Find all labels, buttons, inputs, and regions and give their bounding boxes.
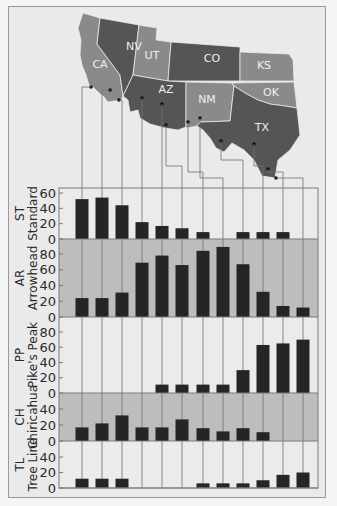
panel-code-label: ST	[13, 205, 27, 221]
bar	[136, 263, 149, 317]
tick-label: 0	[48, 386, 56, 401]
bar	[297, 473, 310, 489]
bar	[96, 298, 109, 317]
map: CANVUTCOKSAZNMOKTX	[78, 13, 300, 180]
bar	[176, 265, 189, 317]
tick-label: 40	[39, 201, 56, 216]
bar	[277, 475, 290, 488]
bar	[257, 345, 270, 393]
bar	[217, 385, 230, 393]
bar	[156, 226, 169, 239]
state-label-ks: KS	[257, 59, 271, 72]
tick-label: 20	[39, 418, 56, 433]
panel-name-label: Standard	[26, 186, 40, 241]
bar	[277, 306, 290, 317]
bar	[116, 293, 129, 317]
bar	[76, 298, 89, 317]
bar	[156, 427, 169, 441]
tick-label: 80	[39, 247, 56, 262]
bar	[237, 370, 250, 393]
bar	[116, 479, 129, 488]
panel-code-label: TL	[13, 457, 27, 472]
tick-label: 0	[48, 232, 56, 247]
bar	[217, 483, 230, 488]
tick-label: 20	[39, 465, 56, 480]
bar	[96, 423, 109, 441]
state-label-nv: NV	[126, 40, 142, 53]
state-az	[123, 75, 186, 130]
bar	[237, 428, 250, 441]
bar	[197, 428, 210, 441]
bar	[237, 232, 250, 239]
state-label-az: AZ	[158, 83, 174, 96]
state-label-ca: CA	[92, 58, 108, 71]
panel-code-label: CH	[13, 408, 27, 425]
bar	[76, 199, 89, 239]
bar	[297, 308, 310, 317]
chart-figure: CANVUTCOKSAZNMOKTX 0204060STStandard0204…	[0, 0, 337, 506]
bar	[76, 479, 89, 488]
bar	[297, 340, 310, 393]
tick-label: 0	[48, 310, 56, 325]
tick-label: 60	[39, 340, 56, 355]
tick-label: 0	[48, 434, 56, 449]
panel-code-label: AR	[13, 270, 27, 287]
bar	[96, 479, 109, 488]
state-label-ok: OK	[263, 86, 280, 99]
tick-label: 40	[39, 450, 56, 465]
tick-label: 20	[39, 294, 56, 309]
bar	[96, 198, 109, 239]
tick-label: 40	[39, 355, 56, 370]
tick-label: 60	[39, 186, 56, 201]
bar	[277, 232, 290, 239]
bar	[176, 419, 189, 441]
bar	[277, 343, 290, 393]
bar	[197, 251, 210, 317]
bar	[217, 431, 230, 441]
bar	[217, 247, 230, 317]
bar	[257, 232, 270, 239]
state-label-co: CO	[204, 52, 221, 65]
bar	[136, 222, 149, 239]
tick-label: 60	[39, 262, 56, 277]
bar	[237, 264, 250, 317]
panel-name-label: Tree Line	[26, 438, 40, 493]
tick-label: 80	[39, 325, 56, 340]
bar	[116, 205, 129, 239]
state-label-ut: UT	[145, 49, 160, 62]
state-label-nm: NM	[198, 93, 216, 106]
bar	[197, 232, 210, 239]
state-label-tx: TX	[254, 121, 270, 134]
tick-label: 40	[39, 402, 56, 417]
bar	[197, 483, 210, 488]
bar	[156, 385, 169, 393]
bar	[176, 385, 189, 393]
bar	[116, 415, 129, 441]
bar	[176, 228, 189, 239]
bar	[197, 385, 210, 393]
panel-name-label: Arrowhead	[26, 246, 40, 311]
tick-label: 20	[39, 216, 56, 231]
tick-label: 20	[39, 370, 56, 385]
bar	[76, 427, 89, 441]
panel-code-label: PP	[13, 348, 27, 362]
bar	[237, 483, 250, 488]
panel-name-label: Pike's Peak	[26, 322, 40, 388]
bar	[136, 427, 149, 441]
tick-label: 0	[48, 481, 56, 496]
bar	[257, 292, 270, 317]
bar	[257, 432, 270, 441]
bar	[156, 256, 169, 317]
bar	[257, 480, 270, 488]
tick-label: 40	[39, 278, 56, 293]
